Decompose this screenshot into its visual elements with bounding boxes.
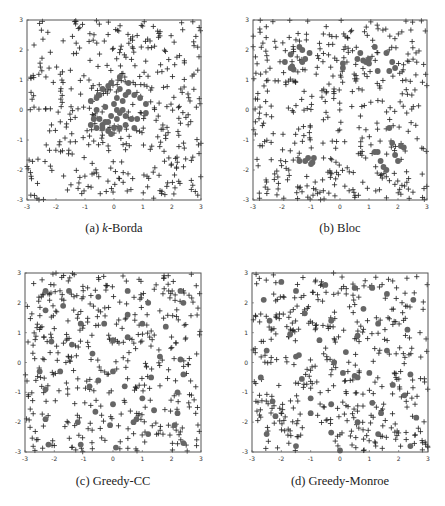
plus-markers — [251, 270, 431, 453]
svg-text:0: 0 — [338, 455, 342, 462]
svg-text:2: 2 — [244, 299, 248, 306]
svg-text:1: 1 — [367, 455, 371, 462]
svg-text:-2: -2 — [242, 418, 248, 425]
caption-label: (d) — [291, 474, 309, 488]
scatter-plot-d: -3-2-10123-3-2-10123 — [0, 0, 445, 465]
panel-d: -3-2-10123-3-2-10123 (d) Greedy-Monroe — [0, 0, 445, 506]
caption-d: (d) Greedy-Monroe — [230, 474, 445, 489]
svg-text:-3: -3 — [249, 455, 255, 462]
svg-text:3: 3 — [426, 455, 430, 462]
committee-dots — [258, 279, 419, 453]
svg-text:-1: -1 — [242, 388, 248, 395]
svg-text:1: 1 — [244, 329, 248, 336]
svg-text:-2: -2 — [278, 455, 284, 462]
svg-text:0: 0 — [244, 359, 248, 366]
svg-text:-1: -1 — [308, 455, 314, 462]
svg-text:3: 3 — [244, 269, 248, 276]
svg-text:-3: -3 — [242, 448, 248, 455]
svg-text:2: 2 — [397, 455, 401, 462]
caption-text: Greedy-Monroe — [309, 474, 390, 488]
